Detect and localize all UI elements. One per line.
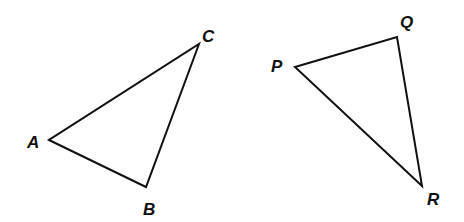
triangles-canvas: A B C P Q R bbox=[0, 0, 464, 222]
vertex-label-q: Q bbox=[400, 13, 413, 32]
vertex-label-c: C bbox=[202, 27, 215, 46]
triangle-abc-outline bbox=[49, 44, 199, 187]
triangle-pqr: P Q R bbox=[271, 13, 440, 209]
triangle-pqr-outline bbox=[295, 37, 422, 186]
vertex-label-r: R bbox=[427, 190, 440, 209]
vertex-label-b: B bbox=[143, 200, 155, 219]
geometry-figure: A B C P Q R bbox=[0, 0, 464, 222]
vertex-label-a: A bbox=[26, 133, 39, 152]
vertex-label-p: P bbox=[271, 57, 283, 76]
triangle-abc: A B C bbox=[26, 27, 215, 219]
